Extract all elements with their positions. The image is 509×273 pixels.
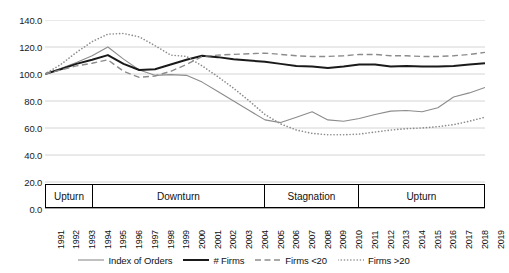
y-axis-tick-label: 140.0: [19, 15, 42, 26]
legend-swatch: [255, 255, 281, 265]
legend-item: Firms <20: [255, 255, 327, 266]
legend-swatch: [338, 255, 364, 265]
legend-item: Index of Orders: [78, 255, 172, 266]
plot-area: [45, 20, 485, 209]
y-axis-tick-label: 120.0: [19, 42, 42, 53]
legend-swatch: [78, 255, 104, 265]
phase-label: Upturn: [406, 191, 436, 202]
phase-segment: Upturn: [46, 185, 93, 207]
phase-label: Downturn: [157, 191, 200, 202]
y-axis-tick-label: 40.0: [24, 150, 42, 161]
x-axis-tick-label: 2019: [481, 209, 509, 249]
phase-segment: Stagnation: [265, 185, 359, 207]
y-axis-tick-label: 20.0: [24, 177, 42, 188]
phase-label: Upturn: [54, 191, 84, 202]
series-line: [45, 47, 485, 123]
phase-band: UpturnDownturnStagnationUpturn: [45, 184, 485, 208]
y-axis-tick-label: 80.0: [24, 96, 42, 107]
phase-segment: Downturn: [93, 185, 265, 207]
y-axis-tick-label: 100.0: [19, 69, 42, 80]
y-axis: 0.020.040.060.080.0100.0120.0140.0: [0, 0, 42, 273]
plot-svg: [45, 20, 485, 209]
legend-item: # Firms: [183, 255, 244, 266]
legend-label: Firms <20: [285, 255, 327, 266]
legend-label: # Firms: [213, 255, 244, 266]
x-axis: 1991199219931994199519961997199819992000…: [45, 209, 485, 249]
series-line: [45, 55, 485, 74]
chart-legend: Index of Orders# FirmsFirms <20Firms >20: [0, 250, 488, 270]
legend-label: Firms >20: [368, 255, 410, 266]
phase-label: Stagnation: [287, 191, 335, 202]
legend-label: Index of Orders: [108, 255, 172, 266]
legend-item: Firms >20: [338, 255, 410, 266]
legend-swatch: [183, 255, 209, 265]
phase-segment: Upturn: [359, 185, 484, 207]
y-axis-tick-label: 60.0: [24, 123, 42, 134]
